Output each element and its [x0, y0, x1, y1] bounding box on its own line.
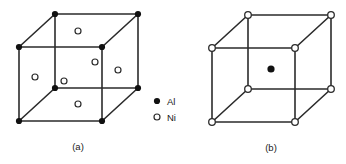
- al-atom-corner: [52, 85, 58, 91]
- al-atom-corner: [16, 44, 22, 50]
- filled-circle-icon: [154, 98, 160, 104]
- al-atom-body-center: [267, 65, 274, 72]
- al-atom-corner: [135, 11, 141, 17]
- edge-diag-top-right: [295, 15, 331, 48]
- ni-atom-face-center-back: [92, 59, 98, 65]
- ni-atom-corner: [292, 45, 299, 52]
- crystal-structure-figure: (a) Al Ni: [0, 0, 346, 164]
- legend-item-ni: Ni: [154, 112, 176, 123]
- ni-atom-face-center-bottom: [75, 101, 81, 107]
- ni-atom-corner: [245, 12, 252, 19]
- ni-atom-corner: [209, 45, 216, 52]
- al-atom-corner: [135, 85, 141, 91]
- al-atom-corner: [52, 11, 58, 17]
- panel-a-ni-atoms: [32, 28, 121, 107]
- al-atom-corner: [99, 44, 105, 50]
- legend-label-ni: Ni: [167, 112, 176, 123]
- edge-diag-bottom-right: [102, 88, 138, 121]
- edge-diag-top-left: [19, 14, 55, 47]
- legend: Al Ni: [154, 96, 176, 123]
- panel-b: (b): [209, 12, 335, 153]
- edge-diag-bottom-left: [212, 89, 248, 122]
- panel-a-caption: (a): [72, 141, 84, 152]
- ni-atom-face-center-left: [32, 74, 38, 80]
- ni-atom-corner: [328, 12, 335, 19]
- panel-a: (a): [16, 11, 141, 152]
- edge-diag-top-right: [102, 14, 138, 47]
- al-atom-corner: [99, 118, 105, 124]
- ni-atom-corner: [292, 119, 299, 126]
- open-circle-icon: [154, 114, 160, 120]
- edge-diag-bottom-right: [295, 89, 331, 122]
- figure-canvas: (a) Al Ni: [0, 0, 346, 164]
- legend-label-al: Al: [167, 96, 175, 107]
- ni-atom-face-center-right: [115, 67, 121, 73]
- ni-atom-face-center-top: [75, 28, 81, 34]
- ni-atom-corner: [245, 86, 252, 93]
- ni-atom-corner: [209, 119, 216, 126]
- ni-atom-corner: [328, 86, 335, 93]
- edge-diag-bottom-left: [19, 88, 55, 121]
- edge-diag-top-left: [212, 15, 248, 48]
- ni-atom-face-center-front: [61, 78, 67, 84]
- legend-item-al: Al: [154, 96, 176, 107]
- al-atom-corner: [16, 118, 22, 124]
- panel-b-caption: (b): [265, 142, 277, 153]
